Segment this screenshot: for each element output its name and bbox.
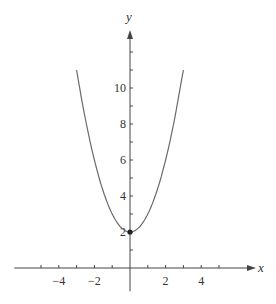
- y-tick-label: 4: [120, 189, 126, 203]
- y-tick-label: 6: [120, 153, 126, 167]
- y-axis-label: y: [124, 9, 132, 24]
- points: [127, 229, 132, 234]
- x-tick-label: −2: [88, 274, 101, 288]
- y-tick-label: 8: [120, 117, 126, 131]
- x-tick-label: 2: [163, 274, 169, 288]
- x-axis-label: x: [257, 260, 264, 275]
- axes: [14, 30, 256, 291]
- y-tick-label: 10: [114, 81, 126, 95]
- plot-area: −4−224246810 x y: [0, 0, 276, 304]
- tick-labels: −4−224246810: [52, 81, 204, 288]
- parabola-chart: −4−224246810 x y: [0, 0, 276, 304]
- y-axis-arrow-icon: [127, 30, 133, 39]
- x-tick-label: −4: [52, 274, 65, 288]
- x-axis-arrow-icon: [247, 265, 256, 271]
- x-tick-label: 4: [198, 274, 204, 288]
- vertex-point: [127, 229, 132, 234]
